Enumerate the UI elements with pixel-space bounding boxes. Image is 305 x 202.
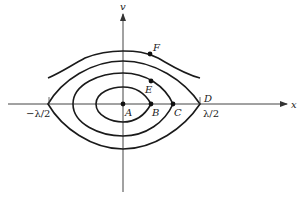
label-A: A <box>124 107 132 118</box>
point-E <box>149 79 154 84</box>
point-B <box>149 102 154 107</box>
x-axis-label: x <box>291 99 297 110</box>
point-A <box>121 102 126 107</box>
point-C <box>171 102 176 107</box>
label-E: E <box>144 84 153 95</box>
phase-space-diagram: v x A B C D E F −λ/2 λ/2 <box>0 0 305 202</box>
tick-label-half-lambda: λ/2 <box>203 108 219 119</box>
tick-label-neg-half-lambda: −λ/2 <box>26 108 50 119</box>
point-F <box>148 52 153 57</box>
label-F: F <box>152 42 161 53</box>
label-C: C <box>174 107 182 118</box>
label-B: B <box>151 107 159 118</box>
open-trajectory <box>48 51 200 78</box>
v-axis-label: v <box>120 1 126 12</box>
label-D: D <box>203 93 212 104</box>
